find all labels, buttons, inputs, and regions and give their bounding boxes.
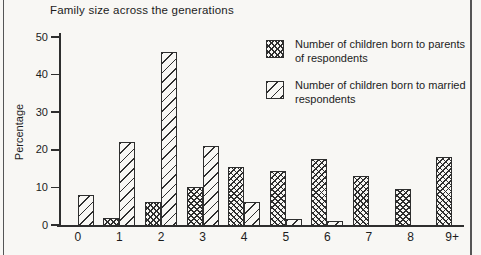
parents-bar — [436, 157, 452, 225]
bar-slot — [203, 146, 219, 225]
bar-slot — [228, 167, 244, 225]
married-bar — [327, 221, 343, 225]
legend-label-parents: Number of children born to parents of re… — [295, 38, 473, 65]
bar-slot — [119, 142, 135, 225]
bar-slot — [161, 52, 177, 225]
bar-slot — [145, 202, 161, 225]
married-bar — [119, 142, 135, 225]
x-category-label: 2 — [140, 230, 182, 244]
legend-item-parents: Number of children born to parents of re… — [266, 38, 473, 65]
y-tick-label: 40 — [18, 67, 48, 82]
parents-bar — [145, 202, 161, 225]
parents-bar — [270, 171, 286, 226]
bar-group — [99, 37, 141, 225]
bar-slot — [270, 171, 286, 226]
bar-slot — [327, 221, 343, 225]
y-tick-label: 10 — [18, 180, 48, 195]
bar-group — [182, 37, 224, 225]
x-axis-labels: 0123456789+ — [57, 230, 473, 244]
x-category-label: 9+ — [431, 230, 473, 244]
scanned-chart-page: Family size across the generations Perce… — [0, 0, 481, 255]
x-category-label: 8 — [390, 230, 432, 244]
y-tick-label: 50 — [18, 30, 48, 45]
bar-group — [57, 37, 99, 225]
bar-slot — [244, 202, 260, 225]
x-category-label: 3 — [182, 230, 224, 244]
married-bar — [286, 219, 302, 225]
x-category-label: 1 — [99, 230, 141, 244]
bar-group — [140, 37, 182, 225]
bar-group — [223, 37, 265, 225]
parents-bar — [311, 159, 327, 225]
legend-label-married: Number of children born to married respo… — [295, 79, 473, 106]
y-tick-label: 20 — [18, 142, 48, 157]
parents-bar — [395, 189, 411, 225]
married-bar — [203, 146, 219, 225]
x-category-label: 6 — [307, 230, 349, 244]
bar-slot — [187, 187, 203, 225]
parents-bar — [228, 167, 244, 225]
married-bar — [244, 202, 260, 225]
x-category-label: 4 — [223, 230, 265, 244]
bar-slot — [103, 218, 119, 226]
bar-slot — [436, 157, 452, 225]
legend: Number of children born to parents of re… — [266, 38, 473, 106]
x-category-label: 0 — [57, 230, 99, 244]
chart-title: Family size across the generations — [50, 4, 234, 16]
bar-slot — [286, 219, 302, 225]
diagonal-swatch-icon — [266, 81, 284, 99]
x-category-label: 5 — [265, 230, 307, 244]
crosshatch-swatch-icon — [266, 40, 284, 58]
bar-slot — [353, 176, 369, 225]
bar-slot — [395, 189, 411, 225]
y-tick-label: 0 — [18, 218, 48, 233]
x-category-label: 7 — [348, 230, 390, 244]
married-bar — [78, 195, 94, 225]
parents-bar — [187, 187, 203, 225]
bar-slot — [311, 159, 327, 225]
parents-bar — [103, 218, 119, 226]
married-bar — [161, 52, 177, 225]
y-tick-label: 30 — [18, 105, 48, 120]
x-axis-line — [57, 225, 464, 227]
parents-bar — [353, 176, 369, 225]
bar-slot — [78, 195, 94, 225]
page-left-edge-line — [3, 0, 4, 255]
legend-item-married: Number of children born to married respo… — [266, 79, 473, 106]
